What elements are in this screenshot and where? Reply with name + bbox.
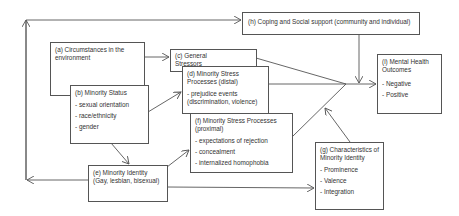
box-e-title: (e) Minority Identity (Gay, lesbian, bis… xyxy=(93,169,163,185)
edge-f-to-i xyxy=(292,84,346,137)
box-i-item: - Negative xyxy=(382,80,437,88)
box-d-title: (d) Minority Stress Processes (distal) xyxy=(187,70,264,86)
box-i-item: - Positive xyxy=(382,91,437,99)
box-h-coping-support: (h) Coping and Social support (community… xyxy=(242,12,420,35)
box-h-title: (h) Coping and Social support (community… xyxy=(248,18,414,26)
edge-c-to-i xyxy=(256,58,346,84)
edge-g-to-path xyxy=(325,108,350,142)
box-b-item: - gender xyxy=(75,123,144,131)
box-g-title: (g) Characteristics of Minority Identity xyxy=(320,146,379,162)
box-f-item: - internalized homophobia xyxy=(195,159,288,167)
edge-e-to-g xyxy=(167,187,314,188)
box-e-minority-identity: (e) Minority Identity (Gay, lesbian, bis… xyxy=(88,165,168,202)
box-a-title: (a) Circumstances in the environment xyxy=(55,46,140,62)
box-b-minority-status: (b) Minority Status - sexual orientation… xyxy=(70,85,149,144)
box-f-item: - concealment xyxy=(195,148,288,156)
box-b-title: (b) Minority Status xyxy=(75,89,144,97)
box-b-item: - race/ethnicity xyxy=(75,112,144,120)
box-g-item: - Prominence xyxy=(320,166,379,174)
box-f-title: (f) Minority Stress Processes (proximal) xyxy=(195,117,288,133)
box-g-identity-characteristics: (g) Characteristics of Minority Identity… xyxy=(315,142,384,210)
edge-b-to-d xyxy=(148,92,181,112)
box-d-item: - prejudice events (discrimination, viol… xyxy=(187,90,264,106)
box-i-title: (i) Mental Health Outcomes xyxy=(382,58,437,74)
box-g-item: - Valence xyxy=(320,177,379,185)
box-d-distal-stress: (d) Minority Stress Processes (distal) -… xyxy=(182,66,269,114)
box-i-mental-health-outcomes: (i) Mental Health Outcomes - Negative - … xyxy=(377,54,442,114)
box-f-item: - expectations of rejection xyxy=(195,137,288,145)
box-f-proximal-stress: (f) Minority Stress Processes (proximal)… xyxy=(190,113,293,173)
edge-b-to-e xyxy=(111,143,129,164)
box-g-item: - Integration xyxy=(320,188,379,196)
edge-e-to-f xyxy=(167,150,189,167)
box-b-item: - sexual orientation xyxy=(75,101,144,109)
